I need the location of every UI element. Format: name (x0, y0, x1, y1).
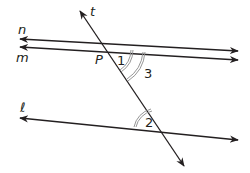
label-n: n (18, 22, 26, 37)
label-angle-1: 1 (117, 53, 125, 68)
label-angle-3: 3 (144, 66, 152, 81)
line-l (20, 118, 238, 140)
label-m: m (16, 50, 29, 65)
line-t (80, 11, 184, 166)
label-t: t (90, 4, 96, 19)
label-p: P (95, 52, 103, 67)
geometry-diagram: t n m ℓ P 1 3 2 (0, 0, 250, 173)
label-l: ℓ (19, 100, 25, 115)
label-angle-2: 2 (145, 115, 153, 130)
